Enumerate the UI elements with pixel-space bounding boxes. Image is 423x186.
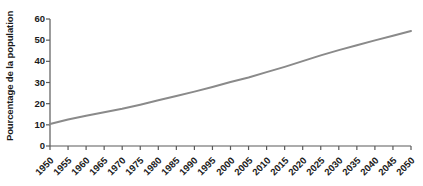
x-axis-ticks xyxy=(50,146,411,150)
plot-area xyxy=(0,0,423,186)
line-chart: Pourcentage de la population 01020304050… xyxy=(0,0,423,186)
series-line-pourcentage-de-la-population xyxy=(50,31,411,124)
